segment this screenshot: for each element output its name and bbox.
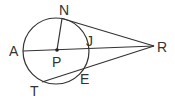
label-r: R <box>157 39 167 55</box>
label-j: J <box>86 33 93 49</box>
center-point-p <box>55 48 59 52</box>
segment-pn <box>57 19 62 51</box>
label-p: P <box>52 54 61 70</box>
label-t: T <box>30 83 39 99</box>
label-a: A <box>9 43 19 59</box>
label-e: E <box>80 71 89 87</box>
geometry-diagram: N A J P R E T <box>0 0 175 108</box>
label-n: N <box>59 2 69 18</box>
segment-nr <box>62 19 154 47</box>
